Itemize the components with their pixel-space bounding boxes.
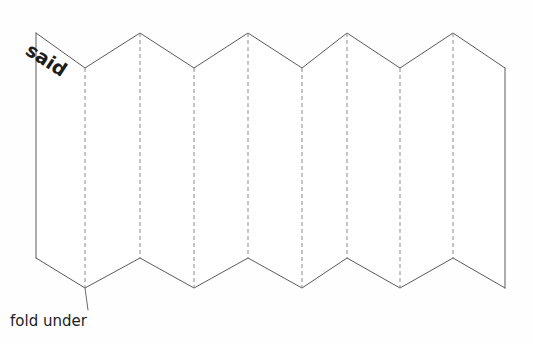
paper-strip-fill <box>36 33 505 288</box>
label-fold-under: fold under <box>10 313 87 330</box>
accordion-fold-illustration <box>0 0 533 344</box>
fold-diagram: said fold under <box>0 0 533 344</box>
